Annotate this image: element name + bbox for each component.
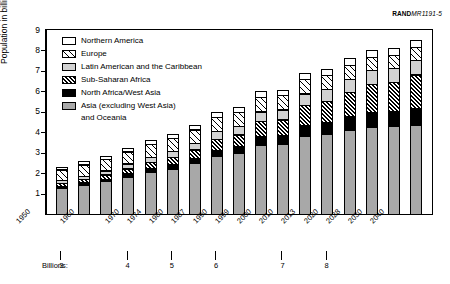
bar-segment	[277, 120, 289, 136]
bar-segment	[388, 112, 400, 127]
bar-segment	[388, 126, 400, 215]
bar-1950	[56, 167, 68, 214]
legend-item-5: Asia (excluding West Asia)	[62, 99, 202, 112]
bar-segment	[410, 60, 422, 75]
bar-segment	[321, 101, 333, 123]
legend-item-4: North Africa/West Asia	[62, 86, 202, 99]
bar-1990	[233, 107, 245, 214]
bar-segment	[145, 172, 157, 214]
bar-segment	[277, 110, 289, 121]
bar-segment	[366, 70, 378, 84]
bar-segment	[299, 105, 311, 125]
bar-segment	[255, 121, 267, 137]
rand-brand-label: RAND	[392, 10, 411, 17]
x-tick-label-1950: 1950	[14, 207, 32, 225]
legend-swatch-icon	[62, 89, 76, 97]
chart-legend: Northern AmericaEuropeLatin American and…	[62, 34, 202, 123]
bar-segment	[299, 94, 311, 106]
bar-2020	[344, 58, 356, 214]
billions-marker-value: 5	[169, 261, 175, 270]
bar-segment	[321, 122, 333, 134]
bar-segment	[211, 139, 223, 150]
legend-swatch-icon	[62, 102, 76, 110]
bar-segment	[366, 57, 378, 71]
bar-1999	[255, 91, 267, 214]
bar-segment	[277, 95, 289, 110]
report-code-label: MR1191-5	[411, 10, 442, 17]
bar-segment	[122, 152, 134, 165]
bar-2040	[410, 40, 422, 214]
bar-segment	[299, 125, 311, 136]
bar-1987	[211, 112, 223, 214]
bar-segment	[255, 145, 267, 215]
bar-segment	[344, 92, 356, 118]
bar-segment	[211, 117, 223, 132]
legend-swatch-icon	[62, 50, 76, 58]
bar-1960	[100, 156, 112, 214]
bar-segment	[366, 113, 378, 128]
legend-swatch-icon	[62, 76, 76, 84]
population-stacked-bar-chart: RANDMR1191-5 Population in billions 1234…	[0, 0, 450, 284]
y-tick-label-7: 7	[18, 66, 40, 74]
bar-segment	[321, 134, 333, 215]
bar-segment	[78, 185, 90, 215]
bar-segment	[233, 135, 245, 147]
legend-swatch-icon	[62, 63, 76, 71]
bar-segment	[233, 112, 245, 127]
bar-segment	[366, 84, 378, 113]
legend-label: Northern America	[81, 37, 143, 45]
bar-segment	[299, 79, 311, 94]
bar-segment	[410, 109, 422, 125]
bar-2010	[299, 73, 311, 214]
bar-segment	[410, 125, 422, 215]
bar-segment	[100, 159, 112, 171]
legend-label: North Africa/West Asia	[81, 89, 160, 97]
y-tick-label-2: 2	[18, 169, 40, 177]
source-credit: RANDMR1191-5	[392, 10, 442, 17]
bar-segment	[211, 156, 223, 214]
bar-segment	[388, 82, 400, 112]
bar-segment	[167, 138, 179, 152]
legend-item-3: Sub-Saharan Africa	[62, 73, 202, 86]
legend-label-continuation: and Oceania	[81, 112, 202, 123]
bar-1955	[78, 161, 90, 214]
bar-1970	[145, 140, 157, 214]
bar-1974	[167, 134, 179, 214]
y-tick-label-3: 3	[18, 148, 40, 156]
bar-segment	[344, 117, 356, 130]
bar-1980	[189, 125, 201, 214]
billions-marker-stem	[171, 251, 172, 260]
bar-1965	[122, 148, 134, 214]
legend-label: Asia (excluding West Asia)	[81, 102, 176, 110]
bar-segment	[410, 47, 422, 60]
y-tick-label-5: 5	[18, 107, 40, 115]
bar-segment	[189, 130, 201, 144]
y-axis-title: Population in billions	[0, 0, 9, 64]
legend-label: Sub-Saharan Africa	[81, 76, 150, 84]
bar-2030	[388, 48, 400, 214]
billions-marker-value: 4	[125, 261, 131, 270]
bar-segment	[56, 170, 68, 181]
bar-segment	[255, 97, 267, 112]
bar-segment	[321, 89, 333, 101]
bar-segment	[344, 65, 356, 80]
billions-marker-value: 6	[213, 261, 219, 270]
bar-segment	[78, 165, 90, 177]
bar-segment	[122, 177, 134, 215]
y-tick-label-8: 8	[18, 46, 40, 54]
billions-milestone-row: Billions: 345678	[0, 250, 450, 280]
bar-segment	[344, 130, 356, 215]
billions-marker-value: 3	[58, 261, 64, 270]
billions-marker-stem	[60, 251, 61, 260]
billions-marker-value: 8	[324, 261, 330, 270]
bar-segment	[344, 79, 356, 92]
bar-segment	[388, 55, 400, 69]
bar-segment	[189, 163, 201, 214]
bar-2000	[277, 90, 289, 214]
bar-segment	[366, 127, 378, 215]
legend-label: Latin American and the Caribbean	[81, 63, 202, 71]
billions-marker-stem	[281, 251, 282, 260]
billions-marker-value: 7	[279, 261, 285, 270]
bar-segment	[388, 68, 400, 83]
legend-label: Europe	[81, 50, 107, 58]
